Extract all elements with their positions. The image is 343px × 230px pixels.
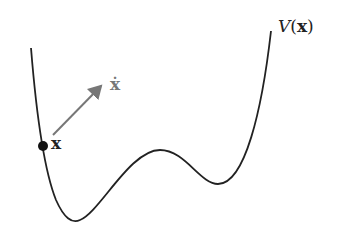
potential-label: V(x) (278, 16, 314, 36)
diagram-canvas: V(x) ẋ x (0, 0, 343, 230)
potential-curve (31, 31, 271, 221)
velocity-label: ẋ (110, 74, 120, 94)
velocity-arrow (53, 86, 101, 135)
state-point (38, 141, 48, 151)
point-label: x (51, 133, 61, 153)
